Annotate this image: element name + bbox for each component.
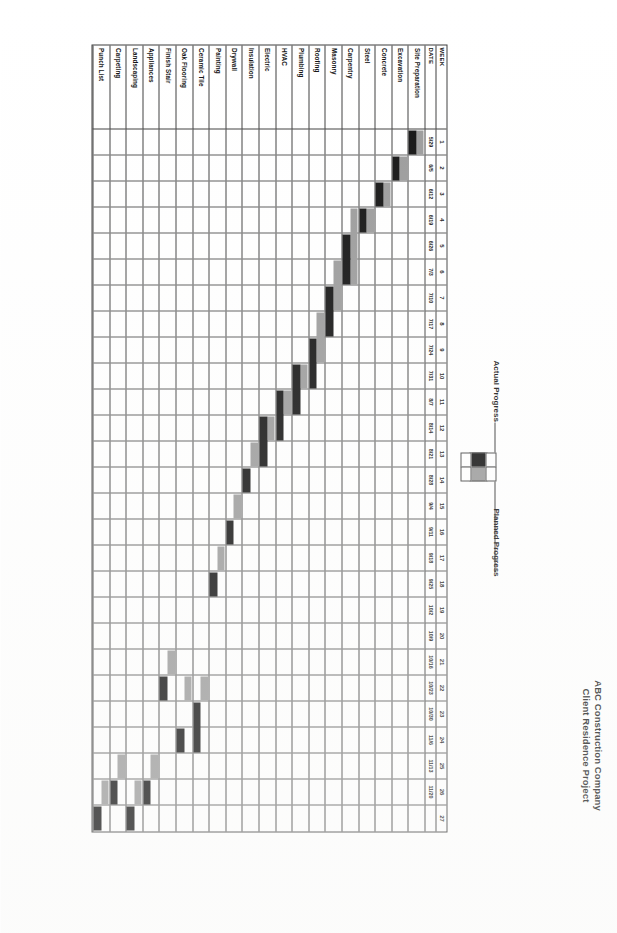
grid-cell (375, 311, 391, 337)
grid-cell (160, 623, 176, 649)
grid-cell (325, 285, 341, 311)
grid-cell (160, 805, 176, 831)
grid-cell (276, 597, 292, 623)
grid-cell (226, 779, 242, 805)
grid-cell (276, 389, 292, 415)
grid-cell (176, 701, 192, 727)
grid-cell (309, 129, 325, 155)
grid-cell (209, 415, 225, 441)
grid-cell (392, 259, 408, 285)
grid-cell (392, 701, 408, 727)
grid-cell (110, 727, 126, 753)
grid-cell (276, 753, 292, 779)
grid-cell (209, 701, 225, 727)
grid-cell (126, 129, 142, 155)
grid-cell (193, 337, 209, 363)
grid-cell (309, 597, 325, 623)
grid-cell (392, 363, 408, 389)
grid-cell (193, 311, 209, 337)
grid-cell (226, 415, 242, 441)
grid-cell (375, 155, 391, 181)
grid-cell (375, 753, 391, 779)
grid-cell (110, 675, 126, 701)
task-name: Concrete (374, 45, 391, 129)
grid-cell (309, 779, 325, 805)
task-cells (142, 129, 159, 831)
grid-cell (309, 545, 325, 571)
grid-cell (342, 129, 358, 155)
grid-cell (226, 311, 242, 337)
grid-cell (342, 389, 358, 415)
grid-cell (160, 519, 176, 545)
grid-cell (309, 753, 325, 779)
grid-cell (209, 779, 225, 805)
grid-cell (110, 623, 126, 649)
grid-cell (359, 727, 375, 753)
grid-cell (392, 467, 408, 493)
grid-cell (259, 441, 275, 467)
legend-top-swatch-right (485, 466, 496, 481)
task-name: Site Preparation (407, 45, 424, 129)
grid-cell (126, 207, 142, 233)
grid-cell (126, 467, 142, 493)
grid-cell (110, 649, 126, 675)
grid-cell (309, 675, 325, 701)
grid-cell (359, 129, 375, 155)
grid-cell (392, 441, 408, 467)
grid-cell (143, 155, 159, 181)
gantt-chart-page: ABC Construction Company Client Residenc… (0, 0, 617, 933)
grid-cell (325, 155, 341, 181)
grid-cell (342, 779, 358, 805)
grid-cell (93, 519, 109, 545)
grid-cell (209, 259, 225, 285)
grid-cell (93, 597, 109, 623)
grid-cell (408, 805, 424, 831)
grid-cell (93, 389, 109, 415)
grid-cell (259, 675, 275, 701)
grid-cell (110, 389, 126, 415)
grid-cell (359, 623, 375, 649)
grid-cell (143, 623, 159, 649)
legend-empty-swatch-left (460, 452, 471, 467)
grid-cell (193, 701, 209, 727)
grid-cell (143, 779, 159, 805)
grid-cell (392, 207, 408, 233)
date-header-cell: 9/25 (424, 571, 435, 597)
grid-cell (259, 727, 275, 753)
task-cells (125, 129, 142, 831)
grid-cell (375, 415, 391, 441)
grid-cell (176, 259, 192, 285)
grid-cell (259, 311, 275, 337)
grid-cell (193, 129, 209, 155)
grid-cell (309, 233, 325, 259)
grid-cell (110, 701, 126, 727)
grid-cell (176, 727, 192, 753)
company-name: ABC Construction Company (591, 625, 603, 865)
grid-cell (392, 623, 408, 649)
grid-cell (176, 441, 192, 467)
grid-cell (93, 259, 109, 285)
grid-cell (226, 675, 242, 701)
date-header-cell: 10/2 (424, 597, 435, 623)
grid-cell (276, 415, 292, 441)
grid-cell (242, 259, 258, 285)
task-name: Excavation (391, 45, 408, 129)
grid-cell (408, 285, 424, 311)
week-header-cell: 8 (435, 311, 446, 337)
grid-cell (126, 805, 142, 831)
grid-cell (259, 701, 275, 727)
grid-cell (242, 727, 258, 753)
grid-cell (408, 545, 424, 571)
grid-cell (226, 805, 242, 831)
grid-cell (160, 285, 176, 311)
week-header-cell: 12 (435, 415, 446, 441)
grid-cell (209, 311, 225, 337)
grid-cell (325, 233, 341, 259)
grid-cell (292, 285, 308, 311)
grid-cell (126, 337, 142, 363)
grid-cell (176, 571, 192, 597)
grid-cell (342, 467, 358, 493)
grid-cell (193, 519, 209, 545)
grid-cell (242, 181, 258, 207)
grid-cell (176, 675, 192, 701)
